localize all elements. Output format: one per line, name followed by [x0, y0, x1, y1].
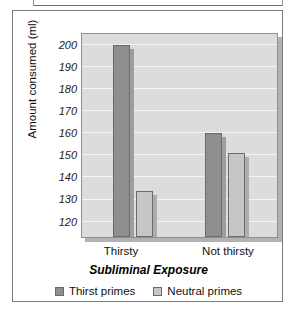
bar-body — [228, 153, 245, 237]
top-box-edge — [33, 0, 283, 6]
bar-thirsty-neutral-primes — [136, 191, 153, 237]
figure-page: 120130140150160170180190200 Amount consu… — [0, 0, 294, 313]
chart-legend: Thirst primes Neutral primes — [13, 285, 284, 297]
y-tick-label: 120 — [15, 216, 77, 228]
bar-not-thirsty-thirst-primes — [205, 133, 222, 237]
plot-area — [81, 33, 278, 238]
legend-item-neutral-primes: Neutral primes — [153, 285, 242, 297]
gridline — [82, 132, 277, 133]
y-tick-label: 160 — [15, 127, 77, 139]
bar-shadow — [153, 195, 157, 238]
y-axis-tick-labels: 120130140150160170180190200 — [13, 33, 77, 238]
bar-body — [205, 133, 222, 237]
gridline — [82, 66, 277, 67]
gridline — [82, 44, 277, 45]
x-tick-label-not-thirsty: Not thirsty — [183, 245, 273, 257]
legend-item-thirst-primes: Thirst primes — [55, 285, 135, 297]
x-axis-title: Subliminal Exposure — [13, 263, 284, 277]
bar-shadow — [222, 137, 226, 238]
y-axis-title: Amount consumed (ml) — [26, 0, 38, 164]
figure-frame: 120130140150160170180190200 Amount consu… — [12, 10, 283, 302]
bar-body — [113, 45, 130, 237]
y-tick-label: 130 — [15, 193, 77, 205]
gridline — [82, 154, 277, 155]
legend-swatch-icon-neutral-primes — [153, 287, 162, 296]
y-tick-label: 170 — [15, 105, 77, 117]
bar-body — [136, 191, 153, 237]
bar-thirsty-thirst-primes — [113, 45, 130, 237]
legend-swatch-icon-thirst-primes — [55, 287, 64, 296]
y-tick-label: 190 — [15, 61, 77, 73]
y-tick-label: 200 — [15, 39, 77, 51]
y-tick-label: 180 — [15, 83, 77, 95]
legend-label-thirst-primes: Thirst primes — [69, 285, 135, 297]
legend-label-neutral-primes: Neutral primes — [167, 285, 242, 297]
y-tick-label: 140 — [15, 171, 77, 183]
bar-shadow — [245, 157, 249, 238]
bar-shadow — [130, 49, 134, 238]
gridline — [82, 110, 277, 111]
gridline — [82, 88, 277, 89]
bar-not-thirsty-neutral-primes — [228, 153, 245, 237]
x-tick-label-thirsty: Thirsty — [81, 245, 161, 257]
y-tick-label: 150 — [15, 149, 77, 161]
